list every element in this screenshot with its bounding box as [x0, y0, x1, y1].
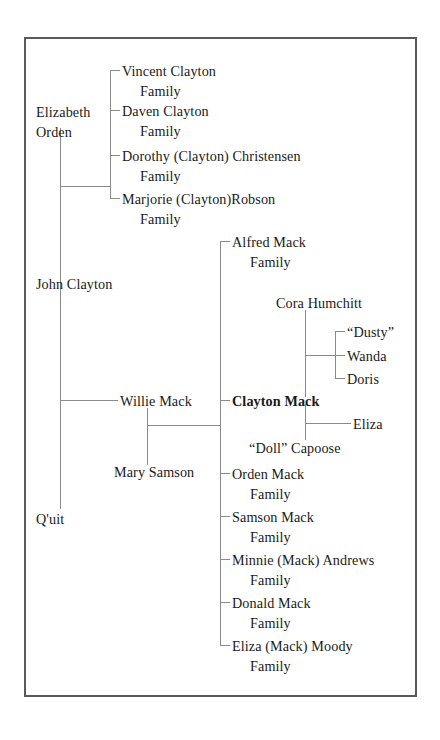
node-mary-samson: Mary Samson — [114, 465, 194, 479]
node-mack-child-1-name: Clayton Mack — [232, 394, 320, 408]
node-clayton-child-2-name: Dorothy (Clayton) Christensen — [122, 149, 301, 163]
node-clayton-child-0-name: Vincent Clayton — [122, 64, 216, 78]
node-cora-humchitt: Cora Humchitt — [276, 296, 362, 310]
node-john-clayton: John Clayton — [36, 277, 112, 291]
node-clayton-child-2-suffix: Family — [140, 169, 181, 183]
node-mack-child-0-suffix: Family — [250, 255, 291, 269]
node-mack-child-2-suffix: Family — [250, 487, 291, 501]
node-clayton-child-3-name: Marjorie (Clayton)Robson — [122, 192, 275, 206]
node-mack-child-0-name: Alfred Mack — [232, 235, 306, 249]
node-mack-child-4-name: Minnie (Mack) Andrews — [232, 553, 374, 567]
node-cora-child-2: Doris — [347, 372, 379, 386]
node-mack-child-4-suffix: Family — [250, 573, 291, 587]
node-doll-capoose: “Doll” Capoose — [249, 441, 341, 455]
node-mack-child-3-name: Samson Mack — [232, 510, 314, 524]
node-clayton-child-0-suffix: Family — [140, 84, 181, 98]
node-willie-mack: Willie Mack — [120, 394, 192, 408]
node-mack-child-3-suffix: Family — [250, 530, 291, 544]
node-mack-child-5-name: Donald Mack — [232, 596, 311, 610]
diagram-frame — [24, 37, 417, 697]
node-cora-child-0: “Dusty” — [347, 325, 394, 339]
node-mack-child-6-suffix: Family — [250, 659, 291, 673]
node-clayton-child-1-suffix: Family — [140, 124, 181, 138]
node-mack-child-5-suffix: Family — [250, 616, 291, 630]
node-mack-child-2-name: Orden Mack — [232, 467, 304, 481]
node-mack-child-6-name: Eliza (Mack) Moody — [232, 639, 353, 653]
node-doll-child-0: Eliza — [353, 417, 383, 431]
node-cora-child-1: Wanda — [347, 349, 387, 363]
node-quit: Q'uit — [36, 512, 64, 526]
node-clayton-child-1-name: Daven Clayton — [122, 104, 209, 118]
node-clayton-child-3-suffix: Family — [140, 212, 181, 226]
node-elizabeth-orden-line2: Orden — [36, 125, 72, 139]
node-elizabeth-orden-line1: Elizabeth — [36, 105, 90, 119]
